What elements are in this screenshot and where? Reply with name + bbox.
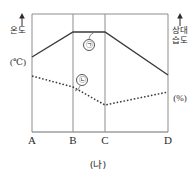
x-tick-label-a: A bbox=[24, 134, 40, 147]
y-axis-right-unit: (%) bbox=[170, 93, 190, 103]
figure-caption: (나) bbox=[0, 157, 196, 171]
series-humidity-line bbox=[32, 76, 168, 105]
marker-temperature-leader bbox=[89, 32, 96, 39]
y-axis-left-unit: (℃) bbox=[8, 57, 28, 67]
x-tick-label-b: B bbox=[65, 134, 81, 147]
y-axis-left-label: 온도 bbox=[10, 26, 26, 36]
marker-temperature: ㉠ bbox=[83, 39, 95, 51]
series-temperature-line bbox=[32, 32, 168, 75]
figure-container: 온도 (℃) 상대 습도 (%) ㉠ ㉡ A B C D (나) bbox=[0, 0, 196, 178]
marker-humidity: ㉡ bbox=[76, 74, 88, 86]
x-tick-label-d: D bbox=[160, 134, 176, 147]
y-axis-right-label: 상대 습도 bbox=[172, 26, 188, 45]
chart-canvas bbox=[0, 0, 196, 178]
x-tick-label-c: C bbox=[97, 134, 113, 147]
